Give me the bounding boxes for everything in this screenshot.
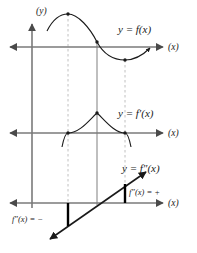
point-f-prime-maximum bbox=[95, 111, 98, 114]
figure-canvas: (y) (x) y = f(x) (x) y = f′(x) bbox=[0, 0, 197, 253]
curve-f-double-prime bbox=[50, 172, 146, 239]
x-axis-label-middle: (x) bbox=[168, 128, 179, 139]
sign-label-concave-up: f″(x) = + bbox=[129, 187, 160, 197]
panel-f-prime: (x) y = f′(x) bbox=[10, 107, 179, 147]
point-f-maximum bbox=[66, 12, 69, 15]
curve-label-f-prime: y = f′(x) bbox=[117, 107, 154, 120]
panel-f: (x) y = f(x) bbox=[10, 12, 179, 61]
point-f-minimum bbox=[123, 58, 126, 61]
curve-f bbox=[47, 14, 150, 60]
point-f-inflection bbox=[95, 40, 98, 43]
point-f-prime-zero-left bbox=[66, 131, 69, 134]
curve-label-f: y = f(x) bbox=[117, 23, 151, 36]
x-axis-label-bottom: (x) bbox=[168, 198, 179, 209]
x-axis-label-top: (x) bbox=[168, 42, 179, 53]
y-axis-group: (y) bbox=[32, 6, 47, 208]
sign-label-concave-down: f″(x) = − bbox=[12, 214, 43, 224]
panel-f-double-prime: (x) y = f″(x) f″(x) = + f″(x) = − bbox=[10, 162, 179, 239]
calculus-derivative-figure: (y) (x) y = f(x) (x) y = f′(x) bbox=[0, 0, 197, 253]
curve-label-f-double-prime: y = f″(x) bbox=[121, 162, 160, 175]
y-axis-label: (y) bbox=[36, 6, 47, 17]
point-f-prime-zero-right bbox=[123, 131, 126, 134]
